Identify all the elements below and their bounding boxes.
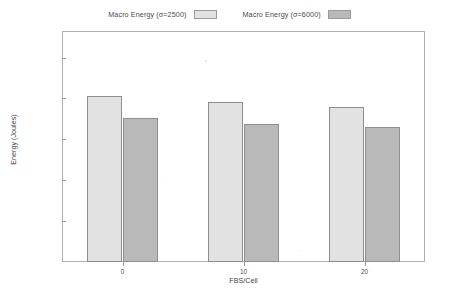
x-tick-label: 20 bbox=[345, 268, 385, 275]
bar-series1-cat-10[interactable] bbox=[208, 102, 244, 262]
y-tick-mark bbox=[62, 98, 66, 99]
bar-series2-cat-0[interactable] bbox=[123, 118, 159, 262]
x-tick-label: 0 bbox=[103, 268, 143, 275]
x-tick-mark bbox=[244, 262, 245, 266]
scan-artifact bbox=[300, 250, 301, 251]
x-axis-title: FBS/Cell bbox=[62, 276, 425, 285]
bar-series1-cat-20[interactable] bbox=[329, 107, 365, 262]
bar-series2-cat-10[interactable] bbox=[244, 124, 280, 262]
bar-series2-cat-20[interactable] bbox=[365, 127, 401, 262]
legend-swatch-series-2 bbox=[328, 10, 351, 19]
legend-entry-macro-energy-sigma-6000[interactable]: Macro Energy (σ=6000) bbox=[243, 10, 351, 19]
bar-chart: Macro Energy (σ=2500) Macro Energy (σ=60… bbox=[0, 0, 459, 299]
y-tick-mark bbox=[62, 139, 66, 140]
legend-label-series-1: Macro Energy (σ=2500) bbox=[108, 10, 186, 19]
x-tick-label: 10 bbox=[224, 268, 264, 275]
y-tick-mark bbox=[62, 221, 66, 222]
chart-legend: Macro Energy (σ=2500) Macro Energy (σ=60… bbox=[0, 10, 459, 19]
x-tick-mark bbox=[123, 262, 124, 266]
scan-artifact bbox=[205, 60, 207, 62]
y-axis-title: Energy (Joules) bbox=[9, 90, 18, 190]
legend-entry-macro-energy-sigma-2500[interactable]: Macro Energy (σ=2500) bbox=[108, 10, 216, 19]
y-tick-mark bbox=[62, 58, 66, 59]
y-tick-mark bbox=[62, 180, 66, 181]
bar-series1-cat-0[interactable] bbox=[87, 96, 123, 262]
x-tick-mark bbox=[365, 262, 366, 266]
legend-label-series-2: Macro Energy (σ=6000) bbox=[243, 10, 321, 19]
legend-swatch-series-1 bbox=[194, 10, 217, 19]
scan-artifact bbox=[165, 178, 166, 179]
